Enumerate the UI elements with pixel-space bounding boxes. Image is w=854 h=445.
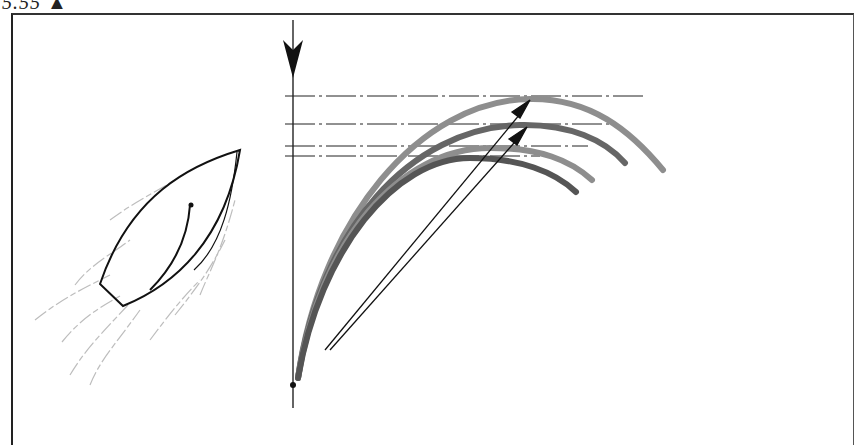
guide-lines [285, 96, 645, 156]
boat [100, 150, 240, 306]
trajectory-curves [298, 99, 663, 378]
wake-lines [35, 180, 235, 385]
